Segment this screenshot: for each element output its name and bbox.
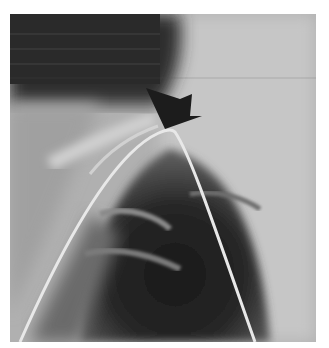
radiograph-image [10,14,316,342]
xray-svg [10,14,316,342]
